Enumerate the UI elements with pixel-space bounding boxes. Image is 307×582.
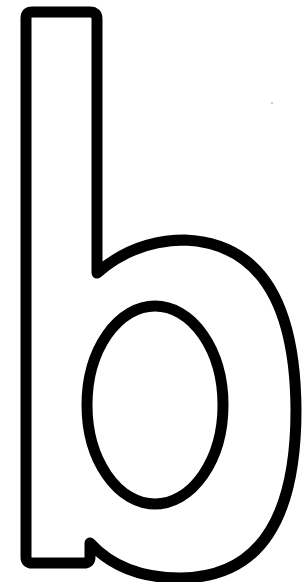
letter-b-outline-icon: [0, 0, 307, 582]
speck: [271, 102, 273, 104]
letter-b-figure: b: [0, 0, 307, 582]
inner-counter: [87, 306, 223, 504]
